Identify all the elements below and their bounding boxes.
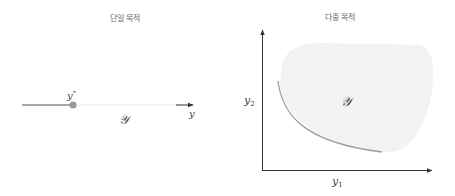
optimum-point — [69, 101, 76, 108]
feasible-set-label: 𝒴 — [119, 113, 132, 127]
diagram-canvas: y* y 𝒴 y2 y1 𝒴 — [0, 0, 455, 196]
single-objective-diagram: y* y 𝒴 — [22, 89, 195, 127]
y2-axis-label: y2 — [243, 94, 255, 108]
multi-objective-diagram: y2 y1 𝒴 — [243, 30, 433, 189]
feasible-region — [280, 43, 433, 152]
axis-label-y: y — [188, 108, 195, 119]
optimum-label: y* — [66, 89, 76, 101]
y1-axis-label: y1 — [331, 175, 343, 189]
